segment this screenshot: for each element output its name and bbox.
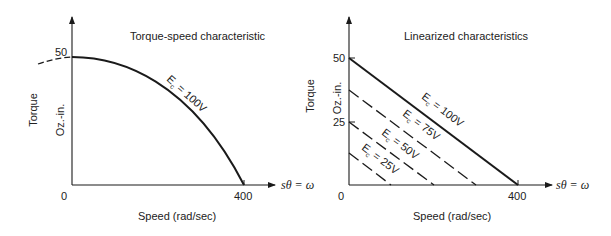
right-tick-25-label: 25	[333, 116, 345, 128]
right-axis-symbol: sθ = ω	[556, 178, 589, 192]
left-yunit: Oz.-in.	[54, 104, 66, 136]
right-line-75v	[349, 90, 476, 185]
right-title: Linearized characteristics	[404, 30, 529, 42]
left-xlabel: Speed (rad/sec)	[138, 210, 216, 222]
right-xlabel: Speed (rad/sec)	[413, 210, 491, 222]
left-tick-400-label: 400	[234, 190, 252, 202]
left-title: Torque-speed characteristic	[130, 30, 266, 42]
right-line-100v	[349, 58, 518, 185]
left-tick-50-label: 50	[55, 46, 67, 58]
right-yunit: Oz.-in.	[331, 82, 343, 114]
figure: 50 0 400 Torque-speed characteristic Spe…	[0, 0, 611, 236]
left-axis-symbol: sθ = ω	[281, 178, 314, 192]
left-tick-0-label: 0	[61, 190, 67, 202]
right-tick-400-label: 400	[508, 190, 526, 202]
svg-text:Ec = 100V: Ec = 100V	[163, 73, 209, 117]
left-curve-extension	[38, 57, 72, 64]
right-chart: 50 25 0 400 Linearized characteristics S…	[304, 17, 589, 222]
right-ylabel: Torque	[304, 79, 316, 113]
left-ylabel: Torque	[27, 93, 39, 127]
right-tick-50-label: 50	[333, 52, 345, 64]
right-tick-0-label: 0	[338, 190, 344, 202]
left-curve-label: Ec = 100V	[163, 73, 209, 117]
left-chart: 50 0 400 Torque-speed characteristic Spe…	[27, 17, 314, 222]
left-curve-100v	[72, 57, 244, 185]
